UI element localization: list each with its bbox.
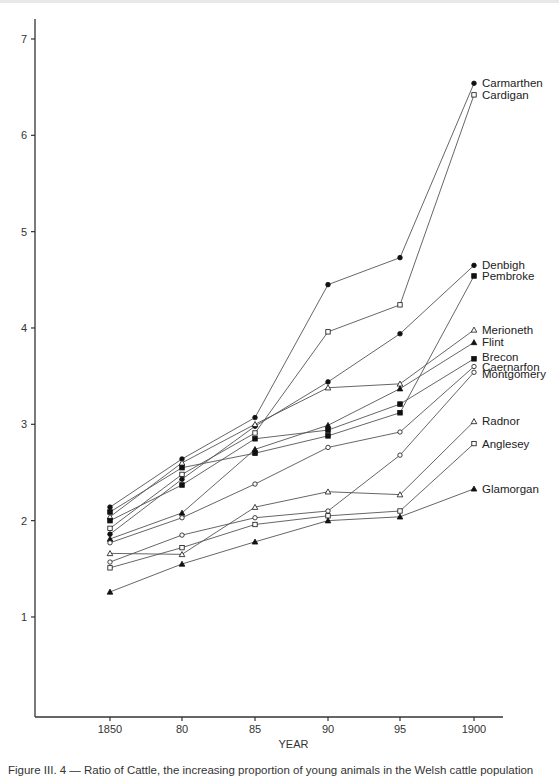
series-label-radnor: Radnor bbox=[482, 415, 520, 427]
x-tick-label: 1900 bbox=[462, 723, 486, 735]
square-marker-icon bbox=[108, 566, 112, 570]
square-marker-icon bbox=[472, 93, 476, 97]
circle-marker-icon bbox=[472, 370, 476, 374]
y-tick-label: 2 bbox=[21, 515, 27, 527]
circle-marker-icon bbox=[253, 415, 258, 420]
circle-marker-icon bbox=[398, 430, 402, 434]
figure-caption: Figure III. 4 — Ratio of Cattle, the inc… bbox=[8, 764, 533, 776]
circle-marker-icon bbox=[180, 516, 184, 520]
circle-marker-icon bbox=[326, 445, 330, 449]
x-axis-title: YEAR bbox=[0, 738, 559, 750]
square-marker-icon bbox=[398, 402, 403, 407]
triangle-marker-icon bbox=[471, 419, 477, 424]
series-line-merioneth bbox=[110, 330, 474, 517]
circle-marker-icon bbox=[326, 509, 330, 513]
circle-marker-icon bbox=[180, 533, 184, 537]
x-tick-label: 1850 bbox=[98, 723, 122, 735]
square-marker-icon bbox=[180, 465, 185, 470]
circle-marker-icon bbox=[398, 331, 403, 336]
series-labels: CarmarthenCardiganDenbighPembrokeMerione… bbox=[482, 77, 546, 495]
series-line-brecon bbox=[110, 359, 474, 521]
series-markers bbox=[107, 81, 477, 594]
square-marker-icon bbox=[398, 303, 402, 307]
series-line-pembroke bbox=[110, 276, 474, 512]
series-line-caernarfon bbox=[110, 367, 474, 543]
square-marker-icon bbox=[398, 410, 403, 415]
triangle-marker-icon bbox=[325, 422, 331, 427]
series-line-carmarthen bbox=[110, 83, 474, 507]
circle-marker-icon bbox=[472, 263, 477, 268]
triangle-marker-icon bbox=[397, 386, 403, 391]
square-marker-icon bbox=[180, 472, 184, 476]
square-marker-icon bbox=[472, 357, 477, 362]
y-tick-label: 4 bbox=[21, 322, 27, 334]
circle-marker-icon bbox=[472, 364, 476, 368]
triangle-marker-icon bbox=[471, 486, 477, 491]
square-marker-icon bbox=[253, 436, 258, 441]
square-marker-icon bbox=[253, 431, 257, 435]
circle-marker-icon bbox=[326, 380, 331, 385]
square-marker-icon bbox=[180, 483, 185, 488]
circle-marker-icon bbox=[108, 560, 112, 564]
circle-marker-icon bbox=[398, 255, 403, 260]
y-tick-label: 3 bbox=[21, 418, 27, 430]
y-tick-label: 6 bbox=[21, 129, 27, 141]
circle-marker-icon bbox=[472, 81, 477, 86]
series-label-flint: Flint bbox=[482, 336, 505, 348]
square-marker-icon bbox=[108, 526, 112, 530]
circle-marker-icon bbox=[108, 541, 112, 545]
series-line-glamorgan bbox=[110, 489, 474, 592]
series-label-cardigan: Cardigan bbox=[482, 89, 529, 101]
series-line-cardigan bbox=[110, 95, 474, 528]
square-marker-icon bbox=[326, 434, 331, 439]
y-tick-label: 7 bbox=[21, 33, 27, 45]
square-marker-icon bbox=[472, 274, 477, 279]
square-marker-icon bbox=[180, 545, 184, 549]
x-tick-label: 95 bbox=[394, 723, 406, 735]
square-marker-icon bbox=[253, 522, 257, 526]
series-lines bbox=[110, 83, 474, 592]
circle-marker-icon bbox=[398, 453, 402, 457]
circle-marker-icon bbox=[180, 477, 185, 482]
series-label-merioneth: Merioneth bbox=[482, 324, 533, 336]
circle-marker-icon bbox=[108, 505, 113, 510]
square-marker-icon bbox=[326, 428, 331, 433]
square-marker-icon bbox=[472, 441, 476, 445]
circle-marker-icon bbox=[253, 482, 257, 486]
x-tick-label: 80 bbox=[176, 723, 188, 735]
series-label-pembroke: Pembroke bbox=[482, 270, 534, 282]
circle-marker-icon bbox=[253, 516, 257, 520]
square-marker-icon bbox=[108, 518, 113, 523]
x-tick-label: 85 bbox=[249, 723, 261, 735]
y-tick-label: 5 bbox=[21, 226, 27, 238]
x-tick-label: 90 bbox=[322, 723, 334, 735]
series-line-montgomery bbox=[110, 372, 474, 562]
y-tick-label: 1 bbox=[21, 611, 27, 623]
square-marker-icon bbox=[326, 330, 330, 334]
series-label-anglesey: Anglesey bbox=[482, 438, 530, 450]
triangle-marker-icon bbox=[252, 422, 258, 427]
series-label-glamorgan: Glamorgan bbox=[482, 483, 539, 495]
series-label-carmarthen: Carmarthen bbox=[482, 77, 543, 89]
axes: 12345671850808590951900 bbox=[21, 19, 503, 735]
series-line-anglesey bbox=[110, 444, 474, 568]
triangle-marker-icon bbox=[471, 340, 477, 345]
circle-marker-icon bbox=[326, 282, 331, 287]
triangle-marker-icon bbox=[471, 327, 477, 332]
series-label-montgomery: Montgomery bbox=[482, 368, 546, 380]
square-marker-icon bbox=[398, 509, 402, 513]
